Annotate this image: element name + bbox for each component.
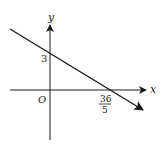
fraction-denominator: 5 xyxy=(102,105,108,115)
graph-line xyxy=(10,29,143,110)
origin-label: O xyxy=(38,94,46,105)
x-intercept-fraction: 36 5 xyxy=(99,94,112,115)
y-axis-label: y xyxy=(47,11,55,24)
fraction-numerator: 36 xyxy=(100,94,112,104)
coordinate-plane: y x O 3 36 5 xyxy=(0,0,163,147)
x-axis-label: x xyxy=(150,83,157,96)
y-intercept-label: 3 xyxy=(41,53,47,64)
